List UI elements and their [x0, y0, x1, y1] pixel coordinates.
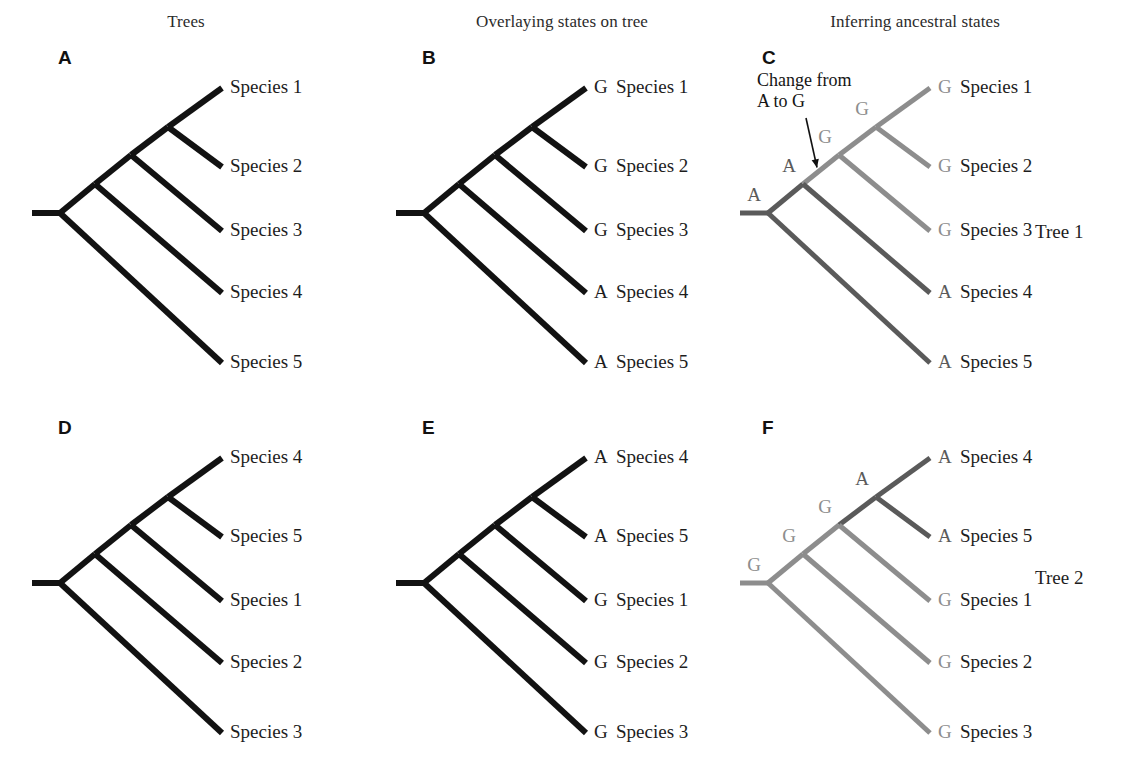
leaf-state-f-2: A [938, 525, 952, 546]
internal-branch-f-1 [803, 525, 839, 554]
leaf-state-e-5: G [594, 721, 608, 742]
leaf-state-c-3: G [938, 219, 952, 240]
internal-branch-d-1 [95, 525, 131, 554]
internal-branch-d-0 [60, 554, 95, 583]
leaf-label-a-2: Species 2 [230, 155, 302, 176]
internal-branch-e-2 [495, 497, 532, 525]
terminal-branch-a-leaf1 [168, 88, 222, 127]
node-state-c-root: A [747, 184, 761, 205]
terminal-branch-b-leaf1 [532, 88, 586, 127]
terminal-branch-c-leaf1 [876, 88, 930, 127]
leaf-label-f-4: Species 2 [960, 651, 1032, 672]
internal-branch-d-2 [131, 497, 168, 525]
leaf-state-c-4: A [938, 281, 952, 302]
node-state-f-n3: A [855, 468, 869, 489]
leaf-label-f-5: Species 3 [960, 721, 1032, 742]
terminal-branch-f-leaf5 [768, 583, 930, 733]
terminal-branch-b-leaf4 [459, 184, 586, 293]
leaf-state-e-2: A [594, 525, 608, 546]
internal-branch-b-2 [495, 127, 532, 155]
change-annotation-arrow-head [812, 159, 819, 168]
leaf-label-d-3: Species 1 [230, 589, 302, 610]
terminal-branch-f-leaf3 [839, 525, 930, 601]
terminal-branch-d-leaf3 [131, 525, 222, 601]
internal-branch-c-0 [768, 184, 803, 213]
terminal-branch-a-leaf3 [131, 155, 222, 231]
leaf-state-b-5: A [594, 351, 608, 372]
change-annotation-arrow [806, 118, 819, 168]
leaf-label-b-1: Species 1 [616, 76, 688, 97]
leaf-label-d-2: Species 5 [230, 525, 302, 546]
node-state-c-n2: G [818, 126, 832, 147]
node-state-c-n1: A [782, 155, 796, 176]
leaf-label-a-5: Species 5 [230, 351, 302, 372]
terminal-branch-b-leaf3 [495, 155, 586, 231]
phylogenetic-trees-svg: Species 1Species 2Species 3Species 4Spec… [0, 0, 1144, 767]
terminal-branch-e-leaf4 [459, 554, 586, 663]
internal-branch-a-0 [60, 184, 95, 213]
leaf-label-b-5: Species 5 [616, 351, 688, 372]
leaf-state-f-1: A [938, 446, 952, 467]
leaf-label-d-1: Species 4 [230, 446, 303, 467]
leaf-label-a-1: Species 1 [230, 76, 302, 97]
leaf-state-b-2: G [594, 155, 608, 176]
terminal-branch-c-leaf4 [803, 184, 930, 293]
leaf-label-e-2: Species 5 [616, 525, 688, 546]
leaf-label-a-4: Species 4 [230, 281, 303, 302]
terminal-branch-d-leaf2 [168, 497, 222, 537]
leaf-label-e-3: Species 1 [616, 589, 688, 610]
node-state-f-root: G [747, 554, 761, 575]
terminal-branch-a-leaf5 [60, 213, 222, 363]
leaf-label-c-2: Species 2 [960, 155, 1032, 176]
terminal-branch-a-leaf2 [168, 127, 222, 167]
node-state-f-n2: G [818, 496, 832, 517]
leaf-label-a-3: Species 3 [230, 219, 302, 240]
terminal-branch-c-leaf5 [768, 213, 930, 363]
leaf-state-c-2: G [938, 155, 952, 176]
leaf-state-e-4: G [594, 651, 608, 672]
leaf-label-c-3: Species 3 [960, 219, 1032, 240]
tree-panel-c: GSpecies 1GSpecies 2GSpecies 3ASpecies 4… [740, 76, 1033, 372]
leaf-label-e-1: Species 4 [616, 446, 689, 467]
leaf-state-c-5: A [938, 351, 952, 372]
leaf-label-e-4: Species 2 [616, 651, 688, 672]
terminal-branch-b-leaf2 [532, 127, 586, 167]
node-state-f-n1: G [782, 525, 796, 546]
terminal-branch-d-leaf5 [60, 583, 222, 733]
tree-panel-b: GSpecies 1GSpecies 2GSpecies 3ASpecies 4… [396, 76, 689, 372]
terminal-branch-b-leaf5 [424, 213, 586, 363]
tree-panel-d: Species 4Species 5Species 1Species 2Spec… [32, 446, 303, 742]
tree-panel-f: ASpecies 4ASpecies 5GSpecies 1GSpecies 2… [740, 446, 1033, 742]
terminal-branch-a-leaf4 [95, 184, 222, 293]
leaf-state-f-4: G [938, 651, 952, 672]
leaf-state-b-4: A [594, 281, 608, 302]
leaf-state-e-3: G [594, 589, 608, 610]
tree-panel-e: ASpecies 4ASpecies 5GSpecies 1GSpecies 2… [396, 446, 689, 742]
internal-branch-c-2 [839, 127, 876, 155]
leaf-label-f-1: Species 4 [960, 446, 1033, 467]
leaf-state-f-5: G [938, 721, 952, 742]
leaf-state-b-1: G [594, 76, 608, 97]
leaf-label-d-5: Species 3 [230, 721, 302, 742]
leaf-label-b-3: Species 3 [616, 219, 688, 240]
leaf-label-f-2: Species 5 [960, 525, 1032, 546]
leaf-label-f-3: Species 1 [960, 589, 1032, 610]
terminal-branch-f-leaf4 [803, 554, 930, 663]
internal-branch-e-0 [424, 554, 459, 583]
tree-panel-a: Species 1Species 2Species 3Species 4Spec… [32, 76, 303, 372]
internal-branch-a-2 [131, 127, 168, 155]
internal-branch-c-1 [803, 155, 839, 184]
terminal-branch-e-leaf1 [532, 458, 586, 497]
leaf-label-c-1: Species 1 [960, 76, 1032, 97]
terminal-branch-e-leaf5 [424, 583, 586, 733]
node-state-c-n3: G [855, 98, 869, 119]
terminal-branch-e-leaf3 [495, 525, 586, 601]
leaf-label-e-5: Species 3 [616, 721, 688, 742]
terminal-branch-f-leaf1 [876, 458, 930, 497]
leaf-state-e-1: A [594, 446, 608, 467]
leaf-label-c-5: Species 5 [960, 351, 1032, 372]
terminal-branch-c-leaf2 [876, 127, 930, 167]
leaf-label-d-4: Species 2 [230, 651, 302, 672]
leaf-state-c-1: G [938, 76, 952, 97]
terminal-branch-d-leaf4 [95, 554, 222, 663]
